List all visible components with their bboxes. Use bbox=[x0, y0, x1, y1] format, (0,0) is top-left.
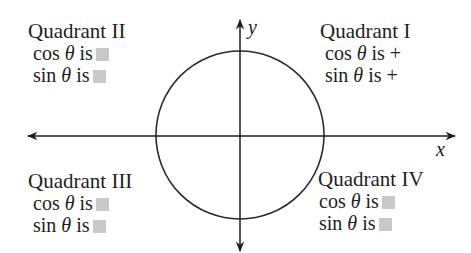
sin-sign-placeholder bbox=[93, 220, 106, 233]
sin-line: sin θ is bbox=[28, 214, 132, 236]
quadrant-title: Quadrant I bbox=[320, 20, 410, 42]
sin-sign: + bbox=[387, 64, 398, 86]
cos-line: cos θ is bbox=[318, 190, 424, 212]
cos-sign: + bbox=[390, 42, 401, 64]
sin-sign-placeholder bbox=[379, 218, 392, 231]
y-axis-label: y bbox=[248, 16, 257, 39]
x-axis-label: x bbox=[436, 138, 445, 161]
quadrant-title: Quadrant III bbox=[28, 170, 132, 192]
cos-line: cos θ is bbox=[28, 42, 125, 64]
quadrant-iii-label: Quadrant III cos θ is sin θ is bbox=[28, 170, 132, 236]
quadrant-title: Quadrant IV bbox=[318, 168, 424, 190]
quadrant-i-label: Quadrant I cos θ is + sin θ is + bbox=[320, 20, 410, 86]
quadrant-ii-label: Quadrant II cos θ is sin θ is bbox=[28, 20, 125, 86]
sin-sign-placeholder bbox=[93, 70, 106, 83]
cos-sign-placeholder bbox=[382, 196, 395, 209]
sin-line: sin θ is bbox=[318, 212, 424, 234]
cos-line: cos θ is + bbox=[320, 42, 410, 64]
cos-sign-placeholder bbox=[96, 198, 109, 211]
quadrant-iv-label: Quadrant IV cos θ is sin θ is bbox=[318, 168, 424, 234]
cos-line: cos θ is bbox=[28, 192, 132, 214]
sin-line: sin θ is + bbox=[320, 64, 410, 86]
sin-line: sin θ is bbox=[28, 64, 125, 86]
quadrant-title: Quadrant II bbox=[28, 20, 125, 42]
cos-sign-placeholder bbox=[96, 48, 109, 61]
